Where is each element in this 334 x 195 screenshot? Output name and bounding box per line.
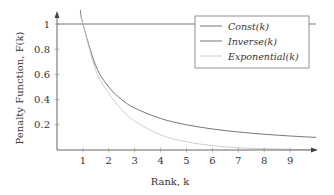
x-axis-label: Rank, k [151,176,191,187]
chart: 123456789 0.20.40.60.81 Rank, k Penalty … [0,0,334,195]
legend-label-exponential: Exponential(k) [227,51,299,62]
y-axis-label: Penalty Function, F(k) [14,31,25,144]
x-tick-label: 2 [106,155,112,166]
x-tick-label: 8 [261,155,267,166]
y-tick-label: 1 [44,19,50,30]
y-tick-label: 0.6 [34,69,50,80]
y-tick-label: 0.4 [34,94,50,105]
x-axis-arrow-icon [311,148,318,153]
x-tick-label: 9 [287,155,293,166]
x-tick-label: 3 [132,155,138,166]
legend: Const(k) Inverse(k) Exponential(k) [195,16,309,68]
legend-label-const: Const(k) [228,21,269,32]
x-tick-label: 6 [209,155,215,166]
x-tick-label: 1 [80,155,86,166]
y-axis-arrow-icon [55,11,60,18]
legend-label-inverse: Inverse(k) [227,36,277,47]
y-ticks: 0.20.40.60.81 [34,19,59,131]
y-tick-label: 0.2 [34,119,50,130]
x-tick-label: 5 [183,155,189,166]
x-tick-label: 4 [157,155,163,166]
x-tick-label: 7 [235,155,241,166]
y-tick-label: 0.8 [34,44,50,55]
